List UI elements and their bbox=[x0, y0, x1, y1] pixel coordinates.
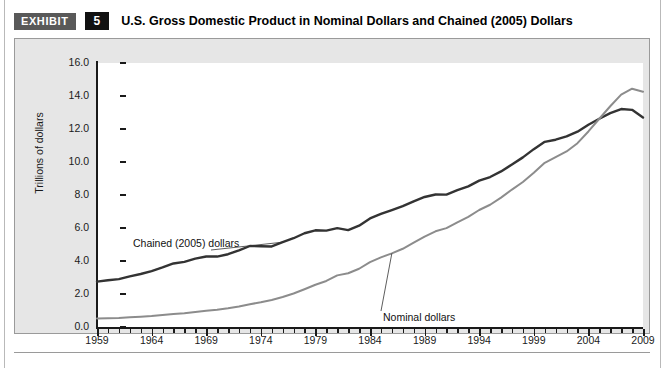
series-label-chained: Chained (2005) dollars bbox=[133, 238, 239, 249]
y-tick-mark bbox=[120, 293, 126, 295]
x-tick-mark-minor bbox=[184, 329, 186, 333]
x-tick-label: 1979 bbox=[293, 335, 337, 346]
x-tick-mark-minor bbox=[545, 329, 547, 333]
x-tick-mark-minor bbox=[359, 329, 361, 333]
x-tick-mark-minor bbox=[403, 329, 405, 333]
x-tick-mark-minor bbox=[436, 329, 438, 333]
x-tick-mark-minor bbox=[632, 329, 634, 333]
x-tick-mark-minor bbox=[326, 329, 328, 333]
y-axis-title: Trillions of dollars bbox=[33, 73, 45, 233]
y-tick-mark bbox=[120, 95, 126, 97]
x-tick-mark-minor bbox=[381, 329, 383, 333]
y-axis-line bbox=[96, 61, 98, 329]
x-tick-mark-minor bbox=[468, 329, 470, 333]
exhibit-tag: EXHIBIT bbox=[14, 13, 76, 30]
page-border-right bbox=[660, 0, 661, 368]
y-tick-mark bbox=[120, 227, 126, 229]
x-tick-mark-minor bbox=[163, 329, 165, 333]
exhibit-header: EXHIBIT 5 U.S. Gross Domestic Product in… bbox=[14, 11, 650, 31]
x-tick-mark-minor bbox=[217, 329, 219, 333]
exhibit-title: U.S. Gross Domestic Product in Nominal D… bbox=[121, 14, 573, 28]
x-tick-mark-minor bbox=[250, 329, 252, 333]
y-tick-mark bbox=[120, 62, 126, 64]
x-tick-mark-minor bbox=[567, 329, 569, 333]
x-tick-mark-minor bbox=[228, 329, 230, 333]
x-tick-mark-minor bbox=[108, 329, 110, 333]
x-tick-label: 1994 bbox=[457, 335, 501, 346]
x-tick-mark-minor bbox=[348, 329, 350, 333]
y-tick-label: 4.0 bbox=[55, 255, 89, 266]
y-tick-mark bbox=[120, 128, 126, 130]
y-tick-mark bbox=[120, 326, 126, 328]
y-tick-label: 2.0 bbox=[55, 288, 89, 299]
x-tick-mark-minor bbox=[556, 329, 558, 333]
x-tick-mark-minor bbox=[304, 329, 306, 333]
y-axis-ticks: 0.02.04.06.08.010.012.014.016.0 bbox=[45, 39, 89, 335]
y-tick-mark bbox=[120, 260, 126, 262]
y-tick-mark bbox=[120, 194, 126, 196]
y-tick-label: 14.0 bbox=[55, 90, 89, 101]
x-tick-mark-minor bbox=[272, 329, 274, 333]
x-tick-label: 1959 bbox=[75, 335, 119, 346]
x-tick-label: 1969 bbox=[184, 335, 228, 346]
x-tick-mark-minor bbox=[337, 329, 339, 333]
bottom-rule bbox=[14, 352, 650, 353]
x-tick-mark-minor bbox=[119, 329, 121, 333]
x-tick-mark-minor bbox=[173, 329, 175, 333]
x-tick-mark-minor bbox=[294, 329, 296, 333]
x-tick-mark-minor bbox=[621, 329, 623, 333]
x-tick-mark-minor bbox=[283, 329, 285, 333]
x-tick-label: 1974 bbox=[239, 335, 283, 346]
x-tick-mark-minor bbox=[239, 329, 241, 333]
plot-area bbox=[97, 63, 643, 327]
x-tick-label: 1999 bbox=[512, 335, 556, 346]
exhibit-number-badge: 5 bbox=[85, 12, 110, 30]
x-tick-mark-minor bbox=[392, 329, 394, 333]
x-tick-label: 2004 bbox=[566, 335, 610, 346]
x-tick-mark-minor bbox=[610, 329, 612, 333]
x-tick-mark-minor bbox=[457, 329, 459, 333]
x-tick-mark-minor bbox=[446, 329, 448, 333]
exhibit-page: EXHIBIT 5 U.S. Gross Domestic Product in… bbox=[0, 0, 666, 368]
x-tick-mark-minor bbox=[195, 329, 197, 333]
x-tick-label: 1989 bbox=[403, 335, 447, 346]
x-tick-mark-minor bbox=[490, 329, 492, 333]
y-tick-label: 12.0 bbox=[55, 123, 89, 134]
x-tick-mark-minor bbox=[414, 329, 416, 333]
x-tick-label: 2009 bbox=[621, 335, 665, 346]
chart-panel: Trillions of dollars 0.02.04.06.08.010.0… bbox=[14, 38, 650, 334]
x-tick-mark-minor bbox=[523, 329, 525, 333]
x-tick-mark-minor bbox=[599, 329, 601, 333]
x-tick-mark-minor bbox=[130, 329, 132, 333]
y-tick-label: 10.0 bbox=[55, 156, 89, 167]
page-border-left bbox=[4, 0, 5, 368]
y-tick-label: 0.0 bbox=[55, 321, 89, 332]
y-tick-label: 16.0 bbox=[55, 57, 89, 68]
y-tick-label: 6.0 bbox=[55, 222, 89, 233]
x-tick-mark-minor bbox=[501, 329, 503, 333]
y-tick-label: 8.0 bbox=[55, 189, 89, 200]
series-label-nominal: Nominal dollars bbox=[383, 312, 455, 323]
x-tick-mark-minor bbox=[512, 329, 514, 333]
x-tick-label: 1984 bbox=[348, 335, 392, 346]
y-tick-mark bbox=[120, 161, 126, 163]
x-tick-label: 1964 bbox=[130, 335, 174, 346]
x-tick-mark-minor bbox=[141, 329, 143, 333]
x-tick-mark-minor bbox=[577, 329, 579, 333]
